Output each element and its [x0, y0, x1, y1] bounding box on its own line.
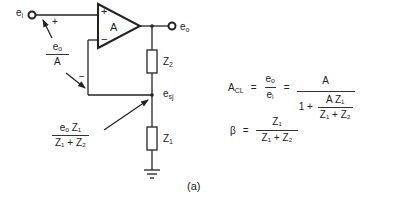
output-terminal [169, 23, 176, 30]
resistor-z2 [147, 50, 157, 73]
ground-icon [144, 170, 160, 178]
gain-expression: A 1 + A Z₁ Z₁ + Z₂ [297, 76, 355, 121]
opamp-minus-label: − [101, 34, 107, 45]
arrow-to-input [43, 20, 52, 38]
acl-symbol: ACL [228, 82, 244, 93]
closed-loop-gain-equation: ACL = eₒ eᵢ = A 1 + A Z₁ Z₁ + Z₂ [228, 54, 355, 121]
divider-voltage-annotation: eₒ Z₁ Z₁ + Z₂ [52, 123, 89, 148]
equals-sign: = [243, 125, 249, 136]
beta-equation: β = Z₁ Z₁ + Z₂ [230, 117, 298, 143]
beta-symbol: β [230, 125, 236, 136]
equals-sign: = [284, 82, 290, 93]
arrow-to-sj [104, 100, 148, 130]
z2-label: Z2 [163, 57, 173, 67]
opamp-gain-label: A [110, 22, 117, 33]
error-voltage-annotation: eₒ A [46, 42, 69, 67]
input-plus-sign: + [52, 17, 58, 27]
equals-sign: = [251, 82, 257, 93]
opamp-plus-label: + [101, 6, 107, 17]
input-terminal-label: ei [16, 8, 23, 18]
feedback-minus-sign: − [79, 72, 85, 82]
esj-label: esj [163, 89, 174, 99]
beta-fraction: Z₁ Z₁ + Z₂ [256, 117, 299, 143]
figure-caption: (a) [187, 181, 200, 192]
output-terminal-label: eo [180, 22, 189, 32]
z1-label: Z1 [163, 134, 173, 144]
sj-node [150, 93, 154, 97]
resistor-z1 [147, 127, 157, 150]
input-terminal [29, 12, 36, 19]
output-node [150, 24, 154, 28]
eo-over-ei: eₒ eᵢ [263, 74, 276, 100]
